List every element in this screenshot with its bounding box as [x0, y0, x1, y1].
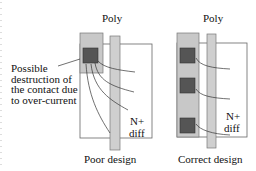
contact [180, 118, 195, 133]
poly-label-right: Poly [203, 13, 223, 24]
annotation-line: the contact due [11, 84, 78, 95]
n-diff-label-left-1: N+ [130, 116, 144, 127]
poly-label-left: Poly [102, 13, 122, 24]
poly-gate [110, 36, 120, 150]
caption-poor-design: Poor design [84, 154, 136, 165]
n-diff-label-right-1: N+ [226, 111, 240, 122]
caption-correct-design: Correct design [178, 154, 242, 165]
contact [83, 48, 98, 63]
annotation-line: Possible [11, 63, 78, 74]
contact [180, 78, 195, 93]
annotation-line: to over-current [11, 95, 78, 106]
failure-annotation: Possible destruction of the contact due … [11, 63, 78, 105]
n-diff-label-right-2: diff [224, 123, 240, 134]
contact [180, 48, 195, 63]
n-diff-label-left-2: diff [129, 128, 145, 139]
poly-gate [207, 34, 216, 148]
